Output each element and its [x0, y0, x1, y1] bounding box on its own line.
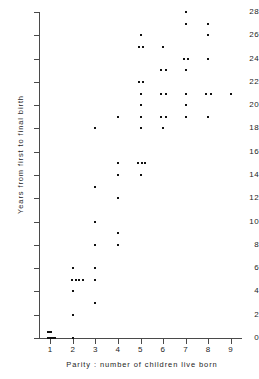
data-point: [94, 302, 96, 304]
data-point: [138, 46, 140, 48]
data-point: [162, 46, 164, 48]
data-point: [94, 186, 96, 188]
data-point: [160, 116, 162, 118]
data-point: [72, 314, 74, 316]
data-point: [140, 116, 142, 118]
data-point: [94, 267, 96, 269]
data-point: [94, 244, 96, 246]
data-point: [185, 23, 187, 25]
x-axis-title: Parity : number of children live born: [39, 360, 245, 369]
data-point: [140, 104, 142, 106]
data-point: [207, 58, 209, 60]
data-point: [142, 81, 144, 83]
data-point: [117, 116, 119, 118]
data-point: [137, 162, 139, 164]
data-point: [160, 69, 162, 71]
data-point: [140, 93, 142, 95]
data-point: [140, 127, 142, 129]
data-point: [117, 244, 119, 246]
data-point: [185, 93, 187, 95]
data-point: [117, 232, 119, 234]
data-point: [72, 337, 74, 339]
y-axis-title: Years from first to final birth: [16, 65, 25, 245]
data-point: [162, 127, 164, 129]
data-point: [94, 279, 96, 281]
data-point: [82, 279, 84, 281]
data-point: [117, 174, 119, 176]
data-point: [140, 174, 142, 176]
data-point: [183, 58, 185, 60]
data-point: [140, 34, 142, 36]
data-point: [94, 127, 96, 129]
data-point: [160, 93, 162, 95]
data-points-layer: [0, 0, 259, 379]
data-point: [71, 279, 73, 281]
data-point: [165, 93, 167, 95]
data-point: [117, 162, 119, 164]
scatter-plot-figure: 0246810121416182022242628 123456789 Pari…: [0, 0, 259, 379]
data-point: [207, 34, 209, 36]
data-point: [185, 69, 187, 71]
data-point: [185, 116, 187, 118]
data-point: [54, 337, 56, 339]
data-point: [72, 290, 74, 292]
plot-area: 0246810121416182022242628 123456789 Pari…: [0, 0, 259, 379]
data-point: [207, 23, 209, 25]
data-point: [205, 93, 207, 95]
data-point: [117, 197, 119, 199]
data-point: [185, 104, 187, 106]
data-point: [138, 81, 140, 83]
data-point: [207, 116, 209, 118]
data-point: [185, 11, 187, 13]
data-point: [230, 93, 232, 95]
data-point: [165, 69, 167, 71]
data-point: [94, 221, 96, 223]
data-point: [187, 58, 189, 60]
data-point: [78, 279, 80, 281]
data-point: [144, 162, 146, 164]
data-point: [141, 162, 143, 164]
data-point: [165, 116, 167, 118]
data-point: [50, 331, 52, 333]
data-point: [75, 279, 77, 281]
data-point: [142, 46, 144, 48]
data-point: [72, 267, 74, 269]
data-point: [210, 93, 212, 95]
